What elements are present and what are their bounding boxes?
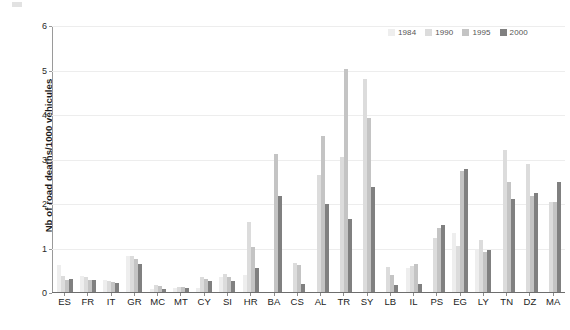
bar-ma-2000[interactable]	[557, 182, 561, 292]
bar-gr-2000[interactable]	[138, 264, 142, 292]
bar-group-cy	[193, 26, 216, 292]
bar-group-mc	[146, 26, 169, 292]
bar-group-ma	[542, 26, 565, 292]
bar-dz-2000[interactable]	[534, 193, 538, 292]
y-tick-label: 0	[42, 288, 47, 298]
bar-group-es	[53, 26, 76, 292]
bar-group-al	[309, 26, 332, 292]
bar-al-2000[interactable]	[325, 204, 329, 292]
y-tick-mark	[49, 293, 52, 294]
x-tick-label-ba: BA	[262, 296, 285, 307]
x-tick-label-mc: MC	[146, 296, 169, 307]
x-tick-label-ps: PS	[425, 296, 448, 307]
x-tick-label-hr: HR	[239, 296, 262, 307]
bar-ps-2000[interactable]	[441, 225, 445, 292]
bar-tn-2000[interactable]	[511, 199, 515, 292]
x-axis-labels: ESFRITGRMCMTCYSIHRBACSALTRSYLBILPSEGLYTN…	[53, 296, 565, 307]
x-tick-label-mt: MT	[169, 296, 192, 307]
x-tick-label-cs: CS	[286, 296, 309, 307]
bar-group-eg	[449, 26, 472, 292]
bar-group-ly	[472, 26, 495, 292]
bar-si-2000[interactable]	[231, 281, 235, 292]
x-tick-label-gr: GR	[123, 296, 146, 307]
road-deaths-bar-chart: 1984199019952000 Nb of road deaths/1000 …	[0, 0, 570, 330]
bar-group-cs	[286, 26, 309, 292]
x-tick-label-il: IL	[402, 296, 425, 307]
bar-group-mt	[169, 26, 192, 292]
y-tick-mark	[49, 26, 52, 27]
bar-group-fr	[76, 26, 99, 292]
bar-lb-2000[interactable]	[394, 285, 398, 292]
x-tick-label-ma: MA	[542, 296, 565, 307]
y-tick-mark	[49, 204, 52, 205]
bar-group-hr	[239, 26, 262, 292]
x-tick-label-al: AL	[309, 296, 332, 307]
page-corner-artifact	[12, 2, 22, 7]
x-tick-label-fr: FR	[76, 296, 99, 307]
y-tick-mark	[49, 160, 52, 161]
y-tick-mark	[49, 71, 52, 72]
bar-ly-2000[interactable]	[487, 250, 491, 292]
x-tick-label-ly: LY	[472, 296, 495, 307]
bar-group-lb	[379, 26, 402, 292]
bar-group-tn	[495, 26, 518, 292]
bar-ba-2000[interactable]	[278, 196, 282, 292]
bar-groups	[53, 26, 565, 292]
bar-group-ba	[262, 26, 285, 292]
bar-group-dz	[518, 26, 541, 292]
bar-sy-2000[interactable]	[371, 187, 375, 292]
bar-tr-2000[interactable]	[348, 219, 352, 292]
bar-group-gr	[123, 26, 146, 292]
bar-group-si	[216, 26, 239, 292]
plot-area: 0123456	[52, 26, 565, 293]
bar-group-it	[100, 26, 123, 292]
y-tick-label: 3	[42, 155, 47, 165]
bar-es-2000[interactable]	[69, 279, 73, 292]
x-tick-label-it: IT	[100, 296, 123, 307]
x-tick-label-dz: DZ	[518, 296, 541, 307]
x-tick-label-sy: SY	[355, 296, 378, 307]
y-tick-label: 5	[42, 66, 47, 76]
x-tick-label-eg: EG	[449, 296, 472, 307]
x-tick-label-tr: TR	[332, 296, 355, 307]
y-tick-mark	[49, 115, 52, 116]
bar-hr-2000[interactable]	[255, 268, 259, 292]
bar-group-il	[402, 26, 425, 292]
bar-cy-2000[interactable]	[208, 281, 212, 292]
bar-cs-2000[interactable]	[301, 284, 305, 292]
x-tick-label-cy: CY	[193, 296, 216, 307]
bar-mt-2000[interactable]	[185, 288, 189, 292]
y-tick-mark	[49, 249, 52, 250]
y-tick-label: 6	[42, 21, 47, 31]
bar-group-sy	[355, 26, 378, 292]
y-tick-label: 1	[42, 244, 47, 254]
bar-group-ps	[425, 26, 448, 292]
x-tick-label-lb: LB	[379, 296, 402, 307]
bar-mc-2000[interactable]	[162, 289, 166, 292]
bar-it-2000[interactable]	[115, 283, 119, 292]
x-tick-label-si: SI	[216, 296, 239, 307]
bar-group-tr	[332, 26, 355, 292]
bar-fr-2000[interactable]	[92, 280, 96, 292]
y-tick-label: 4	[42, 110, 47, 120]
x-tick-label-es: ES	[53, 296, 76, 307]
x-tick-label-tn: TN	[495, 296, 518, 307]
bar-il-2000[interactable]	[418, 284, 422, 292]
y-tick-label: 2	[42, 199, 47, 209]
bar-eg-2000[interactable]	[464, 169, 468, 292]
